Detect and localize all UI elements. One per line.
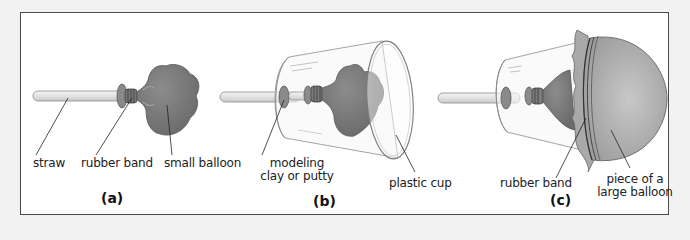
panel-b-drawing xyxy=(220,40,417,161)
rubber-band-icon xyxy=(125,89,137,103)
clay-icon xyxy=(501,87,511,109)
label-rubber-band-a: rubber band xyxy=(81,157,153,170)
panel-c-drawing xyxy=(438,30,667,172)
label-straw: straw xyxy=(33,157,65,170)
straw-icon xyxy=(33,91,123,101)
caption-a: (a) xyxy=(101,190,123,206)
label-small-balloon: small balloon xyxy=(164,157,241,170)
clay-icon xyxy=(279,86,289,108)
large-balloon-piece-icon xyxy=(583,37,667,161)
panel-a-drawing xyxy=(33,64,199,135)
rubber-band-icon xyxy=(532,88,543,104)
caption-c: (c) xyxy=(550,192,571,208)
caption-b: (b) xyxy=(313,193,336,209)
label-modeling-clay-line2: clay or putty xyxy=(257,170,337,183)
label-large-balloon-line2: large balloon xyxy=(595,186,675,199)
label-plastic-cup: plastic cup xyxy=(389,177,452,190)
rubber-band-icon xyxy=(311,86,322,102)
small-balloon-icon xyxy=(137,64,199,135)
label-rubber-band-c: rubber band xyxy=(500,177,572,190)
